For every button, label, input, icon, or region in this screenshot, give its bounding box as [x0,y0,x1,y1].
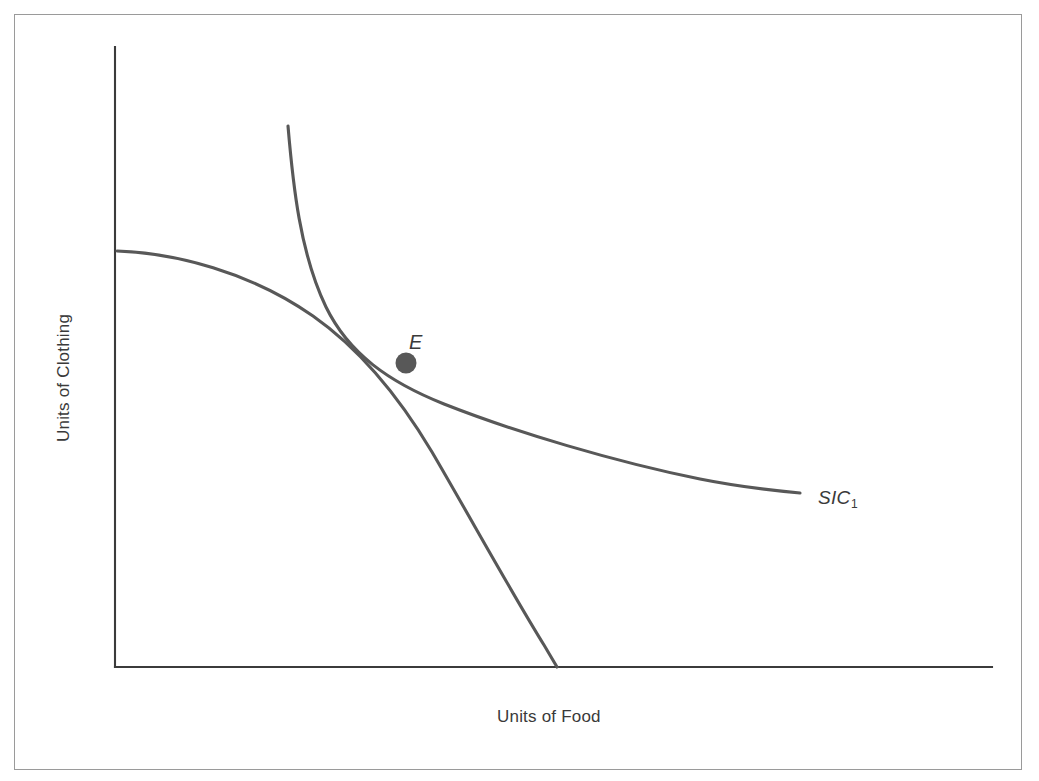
production-possibility-frontier-curve [117,251,557,667]
equilibrium-point-label: E [409,331,422,354]
indifference-curve-label-text: SIC [818,487,851,508]
indifference-curve-sic1 [288,126,800,493]
chart-plot-area [0,0,1039,781]
figure-container: Units of Food Units of Clothing SIC1 E [0,0,1039,781]
x-axis-label: Units of Food [497,707,601,727]
indifference-curve-label: SIC1 [818,487,858,509]
y-axis-label: Units of Clothing [54,314,74,442]
equilibrium-point-marker [396,353,417,374]
indifference-curve-label-subscript: 1 [851,497,858,511]
